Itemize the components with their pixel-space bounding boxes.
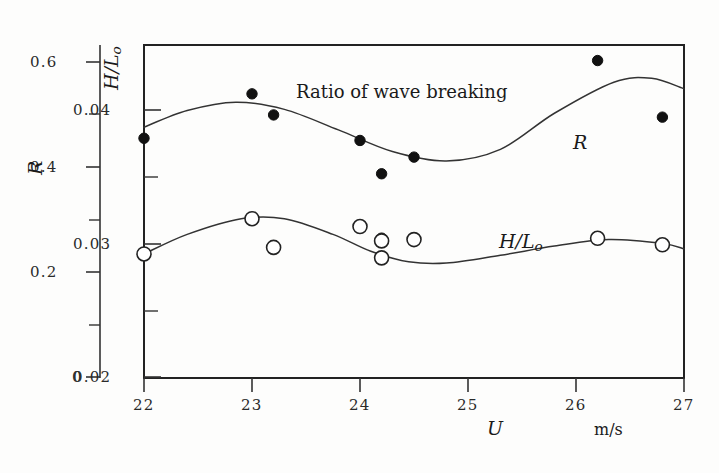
data-point-r	[592, 55, 602, 65]
annotation-hlo-denominator: L	[522, 230, 535, 252]
annotation-ratio-of-wave-breaking: Ratio of wave breaking	[296, 81, 507, 102]
x-tick-label-23: 23	[241, 396, 263, 414]
data-point-r	[355, 135, 365, 145]
x-axis	[144, 378, 684, 392]
data-point-r	[409, 152, 419, 162]
data-point-h-lo	[375, 234, 389, 248]
x-tick-label-27: 27	[673, 396, 695, 414]
x-axis-units: m/s	[594, 420, 623, 439]
hlo-axis-title-subscript: o	[108, 46, 124, 54]
data-point-h-lo	[245, 212, 259, 226]
r-tick-label-0.2: 0.2	[30, 263, 57, 281]
hlo-axis-title-slash: /	[100, 67, 122, 73]
r-axis-title: R	[24, 161, 46, 175]
annotation-hlo-numerator: H	[499, 230, 516, 252]
hlo-axis-title-denominator: L	[100, 54, 122, 67]
hlo-tick-label-0.03: 0.03	[73, 235, 111, 253]
data-point-h-lo	[655, 238, 669, 252]
annotation-hlo-subscript: o	[535, 238, 543, 254]
x-tick-label-24: 24	[349, 396, 371, 414]
data-point-h-lo	[137, 247, 151, 261]
data-point-r	[139, 133, 149, 143]
r-axis	[86, 45, 100, 378]
data-point-r	[247, 89, 257, 99]
annotation-series-r: R	[573, 131, 587, 153]
annotation-series-hlo: H/Lo	[499, 230, 543, 254]
hlo-axis-title-numerator: H	[100, 73, 122, 90]
hlo-tick-label-0.02: 0.02	[73, 368, 111, 386]
x-tick-label-22: 22	[133, 396, 155, 414]
data-point-r	[268, 110, 278, 120]
hlo-axis	[144, 110, 161, 377]
chart-figure: 0.6 0.4 0.2 0 R 0.04 0.03 0.02 H/Lo 22 2…	[0, 0, 719, 473]
data-point-h-lo	[407, 233, 421, 247]
data-point-h-lo	[353, 220, 367, 234]
x-tick-label-26: 26	[565, 396, 587, 414]
data-point-h-lo	[267, 240, 281, 254]
data-point-r	[657, 112, 667, 122]
data-point-r	[376, 169, 386, 179]
data-point-h-lo	[375, 251, 389, 265]
x-axis-title: U	[487, 417, 503, 439]
hlo-axis-title: H/Lo	[100, 46, 124, 90]
data-point-h-lo	[591, 231, 605, 245]
x-tick-label-25: 25	[457, 396, 479, 414]
r-tick-label-0.6: 0.6	[30, 53, 57, 71]
hlo-tick-label-0.04: 0.04	[73, 101, 111, 119]
